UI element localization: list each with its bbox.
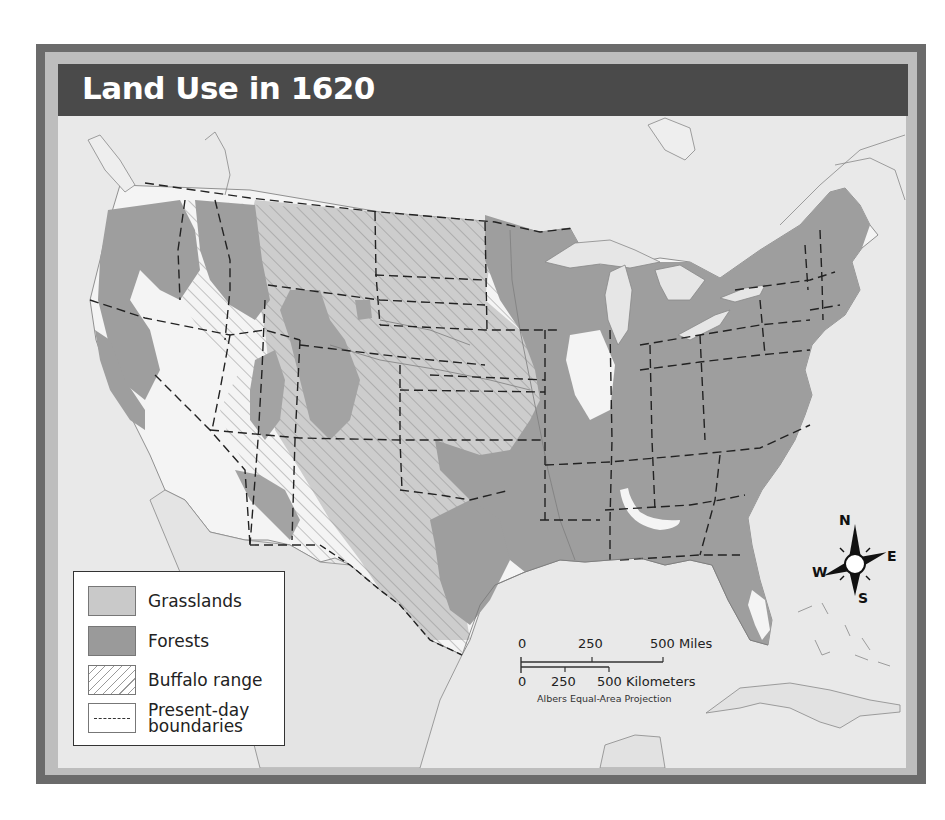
forests-swatch-icon: [88, 626, 136, 656]
title-bar: Land Use in 1620: [58, 64, 908, 116]
scale-bar: 0 250 500 Miles 0 250 500 Kilometers Alb…: [515, 636, 745, 711]
compass-north: N: [839, 512, 851, 528]
grasslands-swatch-icon: [88, 586, 136, 616]
compass-west: W: [812, 564, 827, 580]
km-tick-500: 500 Kilometers: [597, 674, 696, 689]
compass-east: E: [887, 548, 897, 564]
km-tick-250: 250: [551, 674, 576, 689]
legend-item-boundaries: Present-day boundaries: [88, 702, 249, 734]
compass-south: S: [858, 590, 868, 606]
dashed-line-swatch-icon: [88, 703, 136, 733]
legend-item-grasslands: Grasslands: [88, 586, 242, 616]
legend-label: Forests: [148, 633, 209, 650]
scale-lines: [515, 651, 695, 675]
legend-label-line2: boundaries: [148, 716, 243, 736]
legend-label: Present-day boundaries: [148, 702, 249, 734]
compass-rose: N E S W: [810, 512, 900, 607]
projection-label: Albers Equal-Area Projection: [537, 693, 671, 704]
miles-tick-500: 500 Miles: [650, 636, 712, 651]
map-title: Land Use in 1620: [82, 70, 375, 106]
km-tick-0: 0: [518, 674, 526, 689]
legend-item-forests: Forests: [88, 626, 209, 656]
legend-label: Grasslands: [148, 593, 242, 610]
miles-tick-0: 0: [518, 636, 526, 651]
hatched-swatch-icon: [88, 665, 136, 695]
legend-label: Buffalo range: [148, 672, 263, 689]
legend-item-buffalo-range: Buffalo range: [88, 665, 263, 695]
map-legend: Grasslands Forests Buffalo range Present…: [73, 571, 285, 746]
miles-tick-250: 250: [578, 636, 603, 651]
